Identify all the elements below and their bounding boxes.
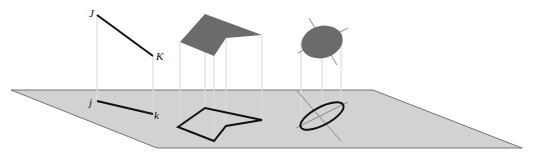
label-K: K bbox=[155, 50, 164, 62]
solid-polygon bbox=[180, 14, 262, 56]
projection-plane bbox=[11, 90, 522, 148]
projection-diagram: J K j k bbox=[0, 0, 533, 160]
segment-JK bbox=[97, 15, 153, 56]
label-J: J bbox=[89, 7, 95, 19]
